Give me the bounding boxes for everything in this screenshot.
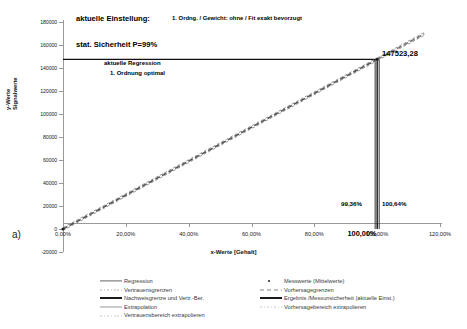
- x-tick-label: 80,00%: [305, 231, 324, 237]
- legend-item-label: Vertrauensbereich extrapolieren: [124, 311, 205, 320]
- light-line-key: [98, 303, 124, 312]
- legend-item-label: Nachweisgrenze und Vertr.-Ber.: [124, 294, 204, 303]
- data-point-marker: [376, 58, 379, 61]
- x-tick-mark: [126, 223, 127, 227]
- y-tick-mark: [59, 183, 63, 184]
- legend-column-right: Messwerte (Mittelwerte)Vorhersagegrenzen…: [258, 277, 395, 311]
- annotation-setting-label: aktuelle Einstellung:: [76, 14, 150, 23]
- x-axis-title: x-Werte [Gehalt]: [0, 249, 467, 255]
- point-marker-key: [258, 277, 284, 286]
- legend-line-marker: [100, 315, 122, 316]
- y-axis-line: [63, 20, 64, 252]
- thick-solid-line-key: [98, 294, 124, 303]
- y-axis-title: y-Werte Signalwerte: [5, 96, 19, 110]
- annotation-result-value: 147523,28: [382, 49, 418, 58]
- y-tick-mark: [59, 137, 63, 138]
- annotation-upper-bound: 100,64%: [382, 200, 406, 207]
- y-tick-mark: [59, 68, 63, 69]
- y-axis-title-line2: Signalwerte: [12, 96, 19, 110]
- faint-dotted-line-key: [258, 303, 284, 312]
- legend-item[interactable]: Vorhersagegrenzen: [258, 286, 395, 295]
- chart-legend: RegressionVertrauensgrenzenNachweisgrenz…: [0, 277, 467, 327]
- legend-item[interactable]: Vertrauensgrenzen: [98, 286, 205, 295]
- y-tick-mark: [59, 206, 63, 207]
- annotation-regression-line2: 1. Ordnung optimal: [110, 70, 165, 76]
- legend-item-label: Extrapolation: [124, 303, 157, 312]
- legend-item-label: Regression: [124, 277, 153, 286]
- legend-item[interactable]: Nachweisgrenze und Vertr.-Ber.: [98, 294, 205, 303]
- solid-line-key: [98, 277, 124, 286]
- panel-label: a): [12, 229, 21, 240]
- x-tick-label: 60,00%: [242, 231, 261, 237]
- legend-line-marker: [260, 297, 282, 299]
- annotation-center-value: 100,00%: [347, 229, 376, 238]
- legend-item[interactable]: Vorhersagebereich extrapolieren: [258, 303, 395, 312]
- legend-line-marker: [100, 281, 122, 282]
- legend-item-label: Vorhersagebereich extrapolieren: [284, 303, 366, 312]
- x-tick-label: 40,00%: [179, 231, 198, 237]
- y-tick-mark: [59, 229, 63, 230]
- chart-root: -200000200004000060000800001000001200001…: [0, 0, 467, 329]
- annotation-lower-bound: 99,36%: [341, 200, 362, 207]
- y-axis-title-line1: y-Werte: [5, 96, 12, 110]
- legend-item-label: Ergebnis /Messunsicherheit (aktuelle Ein…: [284, 294, 395, 303]
- legend-item[interactable]: Messwerte (Mittelwerte): [258, 277, 395, 286]
- legend-line-marker: [260, 289, 282, 290]
- legend-column-left: RegressionVertrauensgrenzenNachweisgrenz…: [98, 277, 205, 320]
- x-tick-mark: [314, 223, 315, 227]
- x-tick-mark: [440, 223, 441, 227]
- legend-item[interactable]: Regression: [98, 277, 205, 286]
- legend-item[interactable]: Ergebnis /Messunsicherheit (aktuelle Ein…: [258, 294, 395, 303]
- y-tick-label: 120000: [40, 88, 57, 94]
- legend-item-label: Messwerte (Mittelwerte): [284, 277, 344, 286]
- y-tick-label: 40000: [43, 180, 57, 186]
- y-tick-label: 80000: [43, 134, 57, 140]
- y-tick-mark: [59, 91, 63, 92]
- x-tick-mark: [252, 223, 253, 227]
- regression-line: [63, 59, 377, 229]
- y-tick-label: 60000: [43, 157, 57, 163]
- y-tick-label: 140000: [40, 65, 57, 71]
- x-tick-mark: [189, 223, 190, 227]
- y-tick-label: 100000: [40, 111, 57, 117]
- y-tick-mark: [59, 114, 63, 115]
- annotation-setting-value: 1. Ordng. / Gewicht: ohne / Fit exakt be…: [172, 15, 302, 21]
- legend-item-label: Vorhersagegrenzen: [284, 286, 334, 295]
- x-tick-label: 0,00%: [55, 231, 71, 237]
- y-tick-label: 180000: [40, 19, 57, 25]
- y-tick-mark: [59, 160, 63, 161]
- y-tick-mark: [59, 45, 63, 46]
- dashed-line-key: [258, 286, 284, 295]
- y-tick-label: 20000: [43, 203, 57, 209]
- legend-item[interactable]: Extrapolation: [98, 303, 205, 312]
- legend-line-marker: [100, 289, 122, 290]
- thick-solid-line-key: [258, 294, 284, 303]
- dotted-line-key: [98, 286, 124, 295]
- annotation-confidence-level: stat. Sicherheit P=99%: [76, 40, 157, 49]
- prediction-lower-line: [63, 61, 377, 231]
- x-axis-line: [63, 223, 442, 224]
- legend-line-marker: [100, 297, 122, 299]
- x-tick-label: 20,00%: [116, 231, 135, 237]
- annotation-regression-line1: aktuelle Regression: [104, 60, 161, 66]
- legend-item[interactable]: Vertrauensbereich extrapolieren: [98, 311, 205, 320]
- prediction-upper-line: [63, 58, 377, 228]
- x-tick-mark: [377, 223, 378, 227]
- legend-line-marker: [260, 307, 282, 308]
- legend-line-marker: [100, 307, 122, 308]
- x-tick-mark: [63, 223, 64, 227]
- legend-item-label: Vertrauensgrenzen: [124, 286, 172, 295]
- faint-dotted-line-key: [98, 311, 124, 320]
- y-tick-mark: [59, 22, 63, 23]
- x-tick-label: 120,00%: [429, 231, 451, 237]
- legend-dot-marker: [268, 280, 270, 282]
- y-tick-label: 160000: [40, 42, 57, 48]
